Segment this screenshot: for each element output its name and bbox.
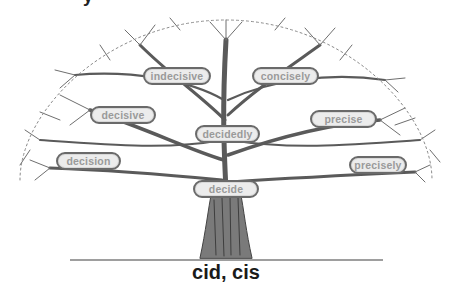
word-bubble-decidedly: decidedly (195, 125, 260, 143)
word-bubble-decide: decide (193, 180, 259, 198)
word-label: decide (209, 183, 243, 195)
word-bubble-decision: decision (56, 152, 121, 170)
word-bubble-decisive: decisive (90, 106, 156, 124)
word-label: indecisive (151, 70, 204, 82)
word-bubble-precise: precise (310, 110, 377, 128)
word-label: concisely (261, 70, 311, 82)
cut-off-top-text: y (83, 0, 93, 7)
word-label: decision (66, 155, 110, 167)
word-bubble-indecisive: indecisive (143, 67, 211, 85)
word-label: decidedly (202, 128, 252, 140)
word-bubble-concisely: concisely (252, 67, 319, 85)
word-label: precisely (354, 159, 401, 171)
word-label: decisive (101, 109, 144, 121)
word-label: precise (324, 113, 362, 125)
word-bubble-precisely: precisely (349, 156, 407, 174)
root-title: cid, cis (0, 261, 452, 284)
